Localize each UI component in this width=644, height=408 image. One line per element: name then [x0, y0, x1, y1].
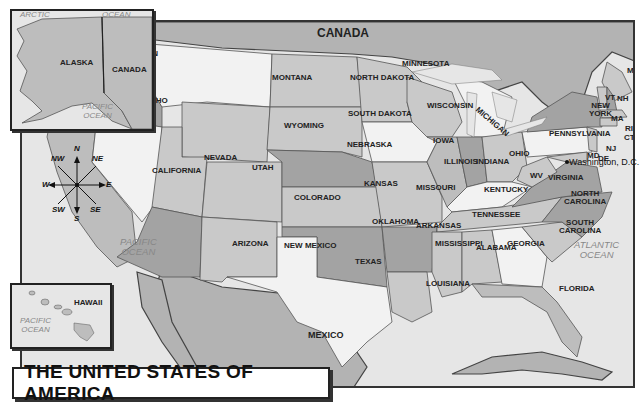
- ocean-label-pacific: PACIFIC OCEAN: [120, 237, 157, 258]
- state-label-montana: MONTANA: [272, 74, 312, 82]
- compass-e: E: [106, 180, 111, 189]
- ocean-label-alaska-pacific: PACIFIC OCEAN: [82, 103, 113, 121]
- hawaii-label: HAWAII: [74, 299, 102, 307]
- state-label-connecticut: CT: [624, 134, 635, 142]
- ocean-label-alaska-pacific-line2: OCEAN: [82, 112, 113, 121]
- state-label-vermont: VT: [605, 94, 615, 102]
- state-label-new-hampshire: NH: [617, 95, 629, 103]
- ocean-label-arctic-word1: ARCTIC: [20, 10, 50, 19]
- state-label-south-dakota: SOUTH DAKOTA: [348, 110, 412, 118]
- state-label-wyoming: WYOMING: [284, 122, 324, 130]
- state-new-mexico: [200, 217, 277, 282]
- state-label-massachusetts: MA: [611, 115, 623, 123]
- state-label-iowa: IOWA: [433, 137, 454, 145]
- compass-sw: SW: [52, 205, 65, 214]
- state-label-california: CALIFORNIA: [152, 167, 201, 175]
- state-florida: [472, 284, 582, 357]
- state-label-virginia: VIRGINIA: [548, 174, 584, 182]
- state-label-colorado: COLORADO: [294, 194, 341, 202]
- state-arkansas: [382, 227, 437, 272]
- compass-se: SE: [90, 205, 101, 214]
- hawaii-inset: HAWAII PACIFIC OCEAN: [10, 283, 112, 349]
- compass-n: N: [74, 144, 80, 153]
- state-label-arkansas: ARKANSAS: [416, 222, 461, 230]
- compass-s: S: [74, 214, 79, 223]
- cuba-island: [452, 352, 612, 380]
- state-label-new-mexico: NEW MEXICO: [284, 242, 336, 250]
- ocean-label-arctic-2: OCEAN: [102, 11, 130, 20]
- alaska-label: ALASKA: [60, 59, 93, 67]
- state-label-nevada: NEVADA: [204, 154, 237, 162]
- compass-rose: N NE E SE S SW W NW: [42, 150, 112, 220]
- state-label-kentucky: KENTUCKY: [484, 186, 528, 194]
- ocean-label-atlantic-line2: OCEAN: [574, 250, 619, 260]
- state-label-arizona: ARIZONA: [232, 240, 268, 248]
- state-label-south-carolina: SOUTH CAROLINA: [559, 219, 601, 235]
- alaska-inset-canada-label: CANADA: [112, 66, 147, 74]
- ocean-label-pacific-line2: OCEAN: [120, 247, 157, 257]
- state-label-west-virginia: WV: [530, 172, 543, 180]
- state-label-utah: UTAH: [252, 164, 274, 172]
- ocean-label-hawaii-pacific: PACIFIC OCEAN: [20, 317, 51, 335]
- ocean-label-hawaii-pacific-line2: OCEAN: [20, 326, 51, 335]
- state-label-south-carolina-line2: CAROLINA: [559, 227, 601, 235]
- country-label-canada: CANADA: [317, 27, 369, 39]
- title-banner: THE UNITED STATES OF AMERICA: [12, 367, 330, 399]
- state-label-rhode-island: RI: [625, 125, 633, 133]
- state-label-texas: TEXAS: [355, 258, 382, 266]
- state-label-nebraska: NEBRASKA: [347, 141, 392, 149]
- state-label-tennessee: TENNESSEE: [472, 211, 520, 219]
- country-label-mexico: MEXICO: [308, 331, 344, 340]
- ocean-label-arctic-word2: OCEAN: [102, 10, 130, 19]
- state-label-florida: FLORIDA: [559, 285, 595, 293]
- alaska-inset: ARCTIC OCEAN ALASKA CANADA PACIFIC OCEAN: [10, 9, 154, 131]
- state-label-north-carolina: NORTH CAROLINA: [564, 190, 606, 206]
- state-label-maine: MAINE: [627, 67, 635, 75]
- state-label-georgia: GEORGIA: [507, 240, 545, 248]
- compass-nw: NW: [51, 154, 64, 163]
- state-label-minnesota: MINNESOTA: [402, 60, 449, 68]
- capital-label: Washington, D.C.: [569, 157, 639, 167]
- state-label-ohio: OHIO: [509, 150, 529, 158]
- state-label-indiana: INDIANA: [476, 158, 509, 166]
- state-label-north-dakota: NORTH DAKOTA: [350, 74, 414, 82]
- state-label-oklahoma: OKLAHOMA: [372, 218, 419, 226]
- compass-w: W: [42, 180, 50, 189]
- state-label-kansas: KANSAS: [364, 180, 398, 188]
- state-label-wisconsin: WISCONSIN: [427, 102, 473, 110]
- state-label-missouri: MISSOURI: [416, 184, 456, 192]
- state-label-illinois: ILLINOIS: [444, 158, 478, 166]
- state-label-louisiana: LOUISIANA: [426, 280, 470, 288]
- ocean-label-atlantic: ATLANTIC OCEAN: [574, 240, 619, 261]
- map-title: THE UNITED STATES OF AMERICA: [24, 361, 328, 405]
- state-label-pennsylvania: PENNSYLVANIA: [549, 130, 611, 138]
- state-label-new-jersey: NJ: [606, 145, 616, 153]
- state-label-new-york-line2: YORK: [589, 110, 612, 118]
- state-label-north-carolina-line2: CAROLINA: [564, 198, 606, 206]
- compass-ne: NE: [92, 154, 103, 163]
- ocean-label-arctic: ARCTIC: [20, 11, 50, 20]
- state-label-new-york: NEW YORK: [589, 102, 612, 118]
- big-island: [74, 323, 94, 341]
